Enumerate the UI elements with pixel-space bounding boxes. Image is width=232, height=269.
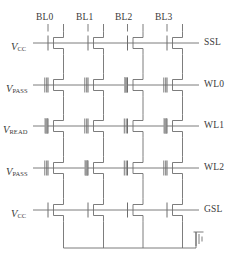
row-label-wl0: WL0: [204, 80, 224, 90]
drain-terminal: [173, 157, 183, 163]
drain-terminal: [94, 199, 104, 205]
drain-terminal: [173, 199, 183, 205]
source-terminal: [133, 216, 143, 222]
drain-terminal: [133, 32, 143, 38]
source-terminal: [173, 91, 183, 97]
source-terminal: [54, 91, 64, 97]
drain-terminal: [173, 74, 183, 80]
source-terminal: [94, 132, 104, 138]
source-terminal: [54, 174, 64, 180]
floating-gate-programmed: [45, 119, 48, 134]
source-terminal: [94, 216, 104, 222]
source-terminal: [133, 91, 143, 97]
drain-terminal: [94, 74, 104, 80]
bias-subscript: CC: [17, 212, 26, 219]
bitline-label-bl1: BL1: [76, 13, 94, 23]
source-terminal: [54, 49, 64, 55]
floating-gate-programmed: [164, 119, 167, 134]
source-terminal: [133, 132, 143, 138]
source-terminal: [173, 49, 183, 55]
bias-label-wl1: VREAD: [3, 120, 28, 136]
bitline-label-bl3: BL3: [155, 13, 173, 23]
drain-terminal: [54, 32, 64, 38]
drain-terminal: [54, 74, 64, 80]
drain-terminal: [54, 157, 64, 163]
source-terminal: [133, 174, 143, 180]
source-terminal: [54, 216, 64, 222]
bias-label-gsl: VCC: [11, 204, 26, 220]
drain-terminal: [94, 157, 104, 163]
source-terminal: [94, 174, 104, 180]
bias-label-wl0: VPASS: [6, 79, 28, 95]
drain-terminal: [94, 115, 104, 121]
bias-subscript: PASS: [12, 170, 27, 177]
source-terminal: [173, 216, 183, 222]
drain-terminal: [133, 74, 143, 80]
row-label-ssl: SSL: [204, 38, 221, 48]
floating-gate-programmed: [85, 161, 88, 176]
source-terminal: [173, 132, 183, 138]
bias-subscript: PASS: [12, 87, 27, 94]
source-terminal: [133, 49, 143, 55]
bias-label-wl2: VPASS: [6, 162, 28, 178]
source-terminal: [94, 91, 104, 97]
row-label-gsl: GSL: [204, 205, 223, 215]
source-terminal: [54, 132, 64, 138]
drain-terminal: [173, 32, 183, 38]
drain-terminal: [133, 115, 143, 121]
circuit-diagram-canvas: BL0 BL1 BL2 BL3 SSL WL0 WL1 WL2 GSL VCC …: [0, 0, 232, 269]
drain-terminal: [133, 157, 143, 163]
drain-terminal: [173, 115, 183, 121]
source-terminal: [173, 174, 183, 180]
drain-terminal: [94, 32, 104, 38]
row-label-wl2: WL2: [204, 163, 224, 173]
drain-terminal: [133, 199, 143, 205]
bitline-label-bl0: BL0: [36, 13, 54, 23]
drain-terminal: [54, 199, 64, 205]
bias-label-ssl: VCC: [11, 37, 26, 53]
bias-subscript: READ: [9, 128, 27, 135]
floating-gate-programmed: [124, 78, 127, 93]
bias-subscript: CC: [17, 45, 26, 52]
nand-array-schematic: [0, 0, 232, 269]
bitline-label-bl2: BL2: [115, 13, 133, 23]
row-label-wl1: WL1: [204, 121, 224, 131]
source-terminal: [94, 49, 104, 55]
drain-terminal: [54, 115, 64, 121]
